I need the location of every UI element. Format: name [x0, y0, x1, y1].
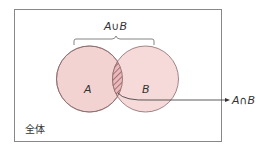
arrow-head-icon	[225, 98, 230, 102]
set-a-label: A	[83, 83, 92, 96]
union-label: A∪B	[103, 20, 127, 33]
set-b-label: B	[142, 83, 150, 96]
intersection-label: A∩B	[231, 94, 255, 107]
venn-diagram: A∪B A B A∩B 全体	[0, 0, 267, 151]
universe-label: 全体	[25, 123, 45, 135]
